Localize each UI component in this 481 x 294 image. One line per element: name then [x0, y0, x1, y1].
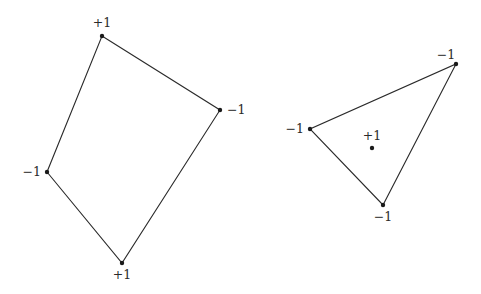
quadrilateral-outline [47, 36, 220, 263]
triangle-vertex-1-label: −1 [374, 209, 392, 224]
triangle-vertex-2-label: −1 [286, 121, 304, 136]
quadrilateral-vertex-3-label: −1 [23, 164, 41, 179]
quadrilateral-vertex-0-point [100, 34, 104, 38]
quadrilateral-vertex-0-label: +1 [93, 15, 111, 30]
quadrilateral-vertex-3-point [45, 170, 49, 174]
polygon-diagram: +1−1+1−1−1−1−1+1 [0, 0, 481, 294]
interior-point-0-point [370, 146, 374, 150]
quadrilateral-vertex-2-point [120, 261, 124, 265]
triangle-outline [310, 64, 456, 205]
triangle-vertex-2-point [308, 127, 312, 131]
quadrilateral-vertex-1-point [218, 108, 222, 112]
quadrilateral-vertex-2-label: +1 [113, 267, 131, 282]
triangle-vertex-0-label: −1 [437, 47, 455, 62]
edges-layer [47, 36, 456, 263]
quadrilateral-vertex-1-label: −1 [227, 102, 245, 117]
interior-point-0-label: +1 [363, 128, 381, 143]
vertices-layer [45, 34, 458, 265]
labels-layer: +1−1+1−1−1−1−1+1 [23, 15, 456, 282]
triangle-vertex-1-point [381, 203, 385, 207]
triangle-vertex-0-point [454, 62, 458, 66]
